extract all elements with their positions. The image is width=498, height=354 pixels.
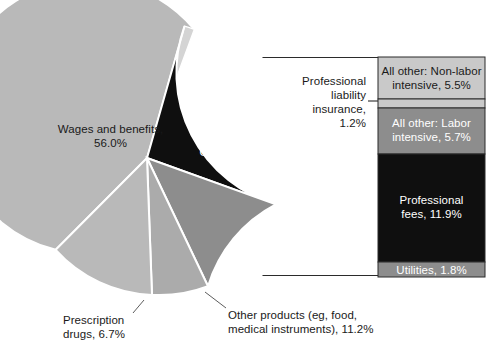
pie-label-other-products: Other products (eg, food, medical instru… [228,308,413,336]
bar-label-all-other-non-labor-intensive: All other: Non-labor intensive, 5.5% [381,64,482,92]
pie-label-professional-liability-insurance: Professional liability insurance, 1.2% [276,74,366,130]
pie-label-other-services: Other services, 26.1% [186,145,291,173]
pie-chart-figure: Wages and benefits, 56.0% Other services… [0,0,498,354]
leader-other-products [205,292,226,308]
bar-segment-liability-tie [378,99,485,108]
bar-label-utilities: Utilities, 1.8% [381,263,482,277]
leader-prescription-drugs [133,300,144,313]
chart-canvas [0,0,498,354]
pie-label-prescription-drugs: Prescription drugs, 6.7% [63,313,173,341]
bar-label-professional-fees: Professional fees, 11.9% [381,193,482,221]
bar-label-all-other-labor-intensive: All other: Labor intensive, 5.7% [381,116,482,144]
pie-label-wages-and-benefits: Wages and benefits, 56.0% [38,122,183,150]
